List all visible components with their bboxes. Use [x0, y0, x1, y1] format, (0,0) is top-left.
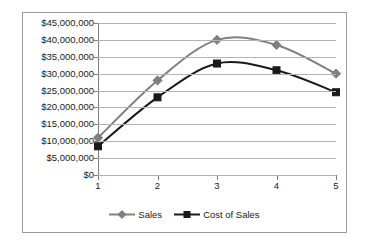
y-axis-tick: [94, 91, 98, 92]
y-axis-tick: [94, 40, 98, 41]
y-axis-tick-labels: $0$5,000,000$10,000,000$15,000,000$20,00…: [23, 23, 94, 175]
legend-square-marker-icon: [174, 209, 200, 220]
x-axis-tick-label: 4: [274, 181, 279, 191]
gridline: [98, 107, 336, 108]
gridline: [98, 74, 336, 75]
gridline: [98, 91, 336, 92]
gridline: [98, 141, 336, 142]
y-axis-tick-label: $15,000,000: [41, 120, 94, 130]
y-axis-tick-label: $45,000,000: [41, 18, 94, 28]
chart-container: $0$5,000,000$10,000,000$15,000,000$20,00…: [22, 12, 347, 233]
y-axis-tick: [94, 107, 98, 108]
y-axis-tick-label: $35,000,000: [41, 52, 94, 62]
legend-diamond-marker-icon: [109, 209, 135, 220]
y-axis-tick: [94, 74, 98, 75]
x-axis-tick-label: 5: [333, 181, 338, 191]
gridline: [98, 57, 336, 58]
x-axis-tick-label: 2: [155, 181, 160, 191]
gridline: [98, 23, 336, 24]
chart-legend: SalesCost of Sales: [23, 209, 346, 220]
x-axis-tick-label: 1: [95, 181, 100, 191]
data-point-square-marker: [214, 60, 221, 67]
legend-label: Sales: [138, 210, 162, 220]
y-axis-tick-label: $5,000,000: [46, 153, 94, 163]
y-axis-tick: [94, 57, 98, 58]
y-axis-tick: [94, 23, 98, 24]
data-point-square-marker: [154, 94, 161, 101]
y-axis-tick: [94, 141, 98, 142]
plot-area: [98, 23, 336, 175]
data-point-square-marker: [95, 143, 102, 150]
legend-entry[interactable]: Cost of Sales: [174, 209, 260, 220]
y-axis-tick-label: $20,000,000: [41, 103, 94, 113]
y-axis-tick: [94, 124, 98, 125]
gridline: [98, 158, 336, 159]
y-axis-tick: [94, 158, 98, 159]
y-axis-tick-label: $30,000,000: [41, 69, 94, 79]
y-axis-tick-label: $0: [83, 170, 94, 180]
gridline: [98, 124, 336, 125]
y-axis-tick-label: $40,000,000: [41, 35, 94, 45]
data-point-diamond-marker: [272, 40, 281, 49]
series-lines: [98, 23, 336, 175]
gridline: [98, 40, 336, 41]
legend-label: Cost of Sales: [203, 210, 260, 220]
series-line: [98, 37, 336, 138]
x-axis-tick-label: 3: [214, 181, 219, 191]
legend-entry[interactable]: Sales: [109, 209, 162, 220]
y-axis-tick-label: $25,000,000: [41, 86, 94, 96]
y-axis-tick-label: $10,000,000: [41, 136, 94, 146]
